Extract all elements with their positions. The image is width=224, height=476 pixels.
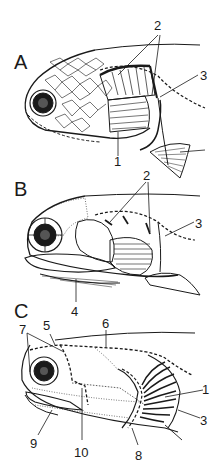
- callout-c-6: 6: [102, 316, 109, 331]
- panel-label-b: B: [14, 178, 27, 200]
- callout-c-10: 10: [74, 445, 88, 460]
- panel-label-c: C: [14, 300, 28, 322]
- pectoral-fin-rays: [140, 362, 176, 422]
- panel-c: C: [14, 300, 209, 463]
- callout-a-2: 2: [154, 18, 161, 33]
- panel-a: A: [14, 18, 207, 178]
- callout-b-3: 3: [195, 216, 202, 231]
- fish-head-diagram: A: [0, 0, 224, 476]
- panel-label-a: A: [14, 51, 28, 73]
- callout-b-2: 2: [143, 168, 150, 183]
- callout-c-1: 1: [202, 382, 209, 397]
- panel-b: B: [14, 168, 202, 319]
- callout-c-3: 3: [200, 413, 207, 428]
- callout-c-7: 7: [19, 322, 26, 337]
- callout-b-4: 4: [71, 304, 78, 319]
- callout-a-1: 1: [114, 154, 121, 169]
- callout-c-8: 8: [135, 448, 142, 463]
- callout-a-3: 3: [200, 68, 207, 83]
- callout-c-9: 9: [30, 436, 37, 451]
- callout-c-5: 5: [43, 318, 50, 333]
